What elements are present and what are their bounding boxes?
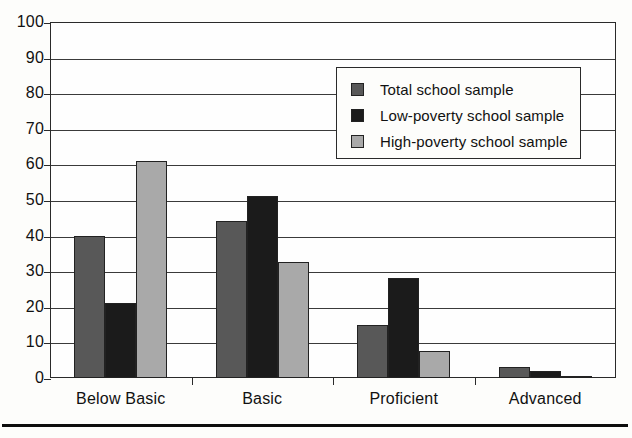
legend-item: Total school sample: [337, 76, 580, 102]
x-axis-category-label: Below Basic: [50, 388, 192, 410]
bar: [499, 367, 530, 378]
chart-legend: Total school sample Low-poverty school s…: [336, 67, 581, 159]
x-axis-category-label: Basic: [192, 388, 334, 410]
bar-group: [74, 22, 167, 378]
legend-swatch-high-poverty-school-sample: [351, 135, 364, 148]
x-axis-ticks: [50, 378, 616, 386]
legend-label: High-poverty school sample: [380, 134, 568, 149]
chart-figure: 0102030405060708090100 Below BasicBasicP…: [0, 0, 632, 438]
legend-label: Low-poverty school sample: [380, 108, 564, 123]
legend-item: High-poverty school sample: [337, 128, 580, 154]
y-axis-tick-label: 10: [0, 334, 44, 350]
x-axis-tick: [192, 378, 193, 385]
bar: [136, 161, 167, 378]
x-axis-category-label: Advanced: [475, 388, 617, 410]
bar: [419, 351, 450, 378]
bar: [105, 303, 136, 378]
bar: [247, 196, 278, 378]
y-axis-tick-label: 100: [0, 14, 44, 30]
y-axis-tick-label: 30: [0, 263, 44, 279]
y-axis-tick-labels: 0102030405060708090100: [0, 22, 44, 378]
x-axis-category-label: Proficient: [333, 388, 475, 410]
x-axis-tick: [475, 378, 476, 385]
bar: [216, 221, 247, 378]
x-axis-tick: [333, 378, 334, 385]
bar: [278, 262, 309, 378]
bar: [388, 278, 419, 378]
y-axis-tick-label: 70: [0, 121, 44, 137]
bar-group: [216, 22, 309, 378]
y-axis-tick-label: 60: [0, 156, 44, 172]
bar: [357, 325, 388, 378]
legend-item: Low-poverty school sample: [337, 102, 580, 128]
legend-swatch-low-poverty-school-sample: [351, 109, 364, 122]
y-axis-tick-label: 20: [0, 299, 44, 315]
legend-label: Total school sample: [380, 82, 514, 97]
y-axis-tick-label: 40: [0, 228, 44, 244]
bar: [530, 371, 561, 378]
y-axis-tick-label: 90: [0, 50, 44, 66]
y-axis-tick-label: 50: [0, 192, 44, 208]
y-axis-tick-label: 80: [0, 85, 44, 101]
x-axis-category-labels: Below BasicBasicProficientAdvanced: [50, 388, 616, 414]
y-axis-tick-label: 0: [0, 370, 44, 386]
legend-swatch-total-school-sample: [351, 83, 364, 96]
bar: [74, 236, 105, 378]
bottom-divider-rule: [2, 424, 628, 427]
